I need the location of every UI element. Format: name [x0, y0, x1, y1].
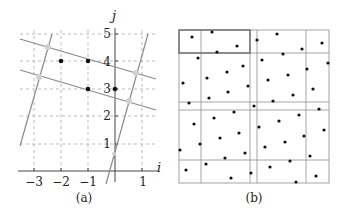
x-tick-label: 1: [139, 175, 147, 189]
grid: [20, 30, 158, 171]
y-tick-label: 3: [103, 82, 111, 96]
caption-a: (a): [76, 191, 93, 205]
x-tick-label: −2: [52, 175, 70, 189]
caption-b: (b): [245, 191, 262, 205]
y-tick-label: 4: [103, 55, 111, 69]
x-tick-labels: −3 −2 −1 1: [25, 175, 147, 189]
x-axis-label: i: [157, 160, 161, 175]
figure-canvas: −3 −2 −1 1 1 2 3 4 5 i j (a): [0, 0, 343, 212]
highlighted-cell: [179, 30, 250, 53]
y-tick-label: 5: [103, 27, 111, 41]
y-axis-label: j: [109, 8, 116, 23]
steep-line-left: [20, 34, 52, 146]
x-tick-label: −1: [79, 175, 97, 189]
panel-a: −3 −2 −1 1 1 2 3 4 5 i j (a): [18, 8, 161, 205]
y-tick-label: 1: [103, 137, 111, 151]
x-tick-label: −3: [25, 175, 43, 189]
y-tick-label: 2: [103, 109, 111, 123]
y-tick-labels: 1 2 3 4 5: [103, 27, 111, 151]
panel-b: (b): [178, 30, 329, 205]
